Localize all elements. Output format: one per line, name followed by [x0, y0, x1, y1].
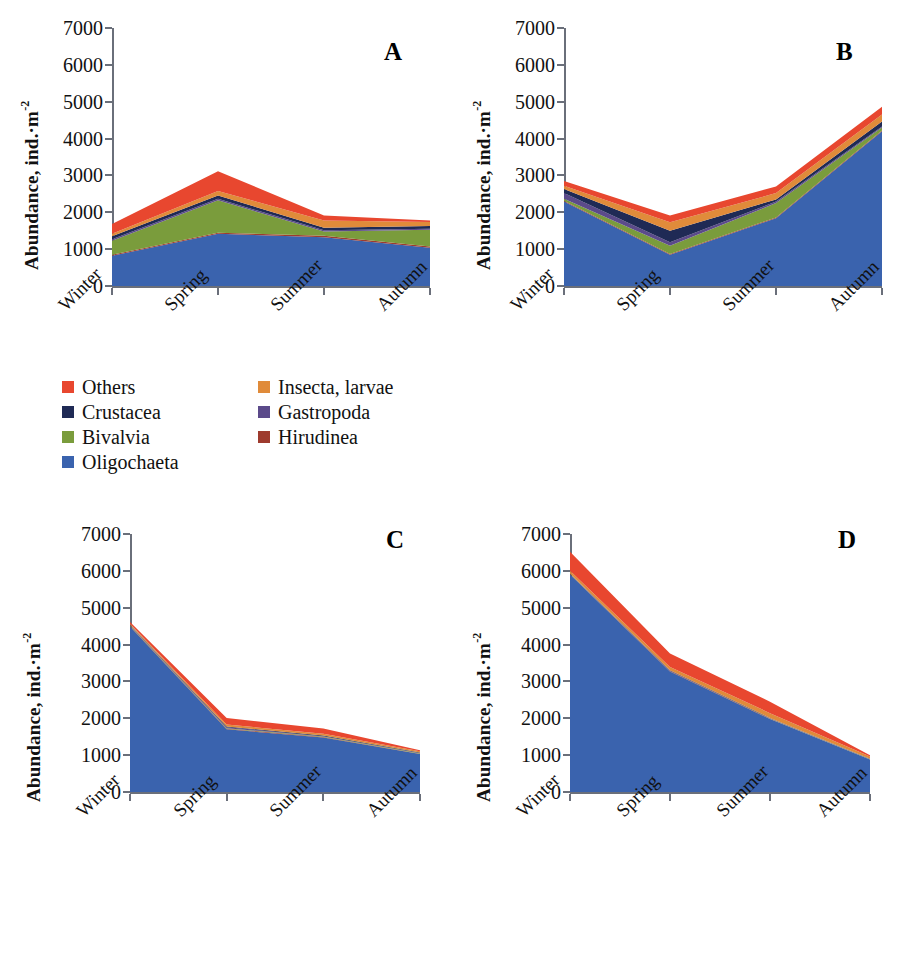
legend-row: OthersInsecta, larvae [62, 374, 462, 399]
panel-d: Abundance, ind.·m-2 01000200030004000500… [452, 512, 907, 912]
x-axis-tick-mark [323, 288, 325, 295]
x-axis-tick-mark [669, 288, 671, 295]
y-axis-tick-mark [123, 570, 130, 572]
y-axis-tick-mark [557, 248, 564, 250]
y-axis-tick-mark [123, 644, 130, 646]
y-axis-unit-exponent: -2 [20, 632, 34, 642]
legend-swatch-icon [258, 381, 270, 393]
stacked-area-plot [112, 28, 430, 287]
x-axis-tick-mark [563, 288, 565, 295]
panel-d-label: D [838, 526, 856, 554]
panel-c-y-axis-label: Abundance, ind.·m-2 [20, 572, 45, 802]
panel-c-plot-area: 01000200030004000500060007000WinterSprin… [130, 534, 420, 792]
legend-item-others[interactable]: Others [62, 377, 258, 397]
area-series-oligochaeta [130, 627, 420, 792]
legend-swatch-icon [258, 406, 270, 418]
legend-row: CrustaceaGastropoda [62, 399, 462, 424]
x-axis-tick-mark [869, 794, 871, 801]
x-axis-tick-mark [669, 794, 671, 801]
x-axis-tick-mark [322, 794, 324, 801]
legend-item-gastropoda[interactable]: Gastropoda [258, 402, 370, 422]
y-axis-tick-mark [557, 27, 564, 29]
legend: OthersInsecta, larvaeCrustaceaGastropoda… [62, 374, 462, 474]
y-axis-tick-mark [557, 174, 564, 176]
legend-swatch-icon [62, 406, 74, 418]
y-axis-unit-exponent: -2 [18, 100, 32, 110]
panel-c-label: C [386, 526, 404, 554]
y-axis-tick-mark [105, 174, 112, 176]
legend-item-insecta-larvae[interactable]: Insecta, larvae [258, 377, 393, 397]
x-axis-tick-mark [226, 794, 228, 801]
panel-a-label: A [384, 38, 402, 66]
y-axis-tick-mark [563, 680, 570, 682]
y-axis-tick-mark [123, 717, 130, 719]
y-axis-tick-mark [557, 101, 564, 103]
y-axis-tick-mark [123, 533, 130, 535]
legend-label: Hirudinea [278, 427, 358, 447]
panel-c: Abundance, ind.·m-2 01000200030004000500… [0, 512, 452, 912]
panel-a-plot-area: 01000200030004000500060007000WinterSprin… [112, 28, 430, 286]
figure-root: Abundance, ind.·m-2 01000200030004000500… [0, 0, 907, 970]
panel-d-plot-area: 01000200030004000500060007000WinterSprin… [570, 534, 870, 792]
legend-label: Insecta, larvae [278, 377, 393, 397]
legend-item-crustacea[interactable]: Crustacea [62, 402, 258, 422]
y-axis-tick-mark [557, 285, 564, 287]
y-axis-unit-exponent: -2 [470, 100, 484, 110]
y-axis-tick-mark [105, 27, 112, 29]
y-axis-tick-mark [123, 680, 130, 682]
y-axis-tick-mark [123, 607, 130, 609]
legend-row: BivalviaHirudinea [62, 424, 462, 449]
legend-item-oligochaeta[interactable]: Oligochaeta [62, 452, 258, 472]
y-axis-tick-mark [105, 64, 112, 66]
legend-label: Gastropoda [278, 402, 370, 422]
y-axis-tick-mark [557, 138, 564, 140]
x-axis-tick-mark [129, 794, 131, 801]
y-axis-tick-mark [563, 570, 570, 572]
panel-b: Abundance, ind.·m-2 01000200030004000500… [452, 0, 907, 380]
y-axis-tick-mark [123, 791, 130, 793]
legend-item-hirudinea[interactable]: Hirudinea [258, 427, 358, 447]
y-axis-tick-mark [563, 644, 570, 646]
legend-swatch-icon [62, 431, 74, 443]
legend-row: Oligochaeta [62, 449, 462, 474]
y-axis-tick-mark [105, 138, 112, 140]
x-axis-tick-mark [769, 794, 771, 801]
x-axis-tick-mark [419, 794, 421, 801]
y-axis-tick-mark [563, 533, 570, 535]
x-axis-tick-mark [881, 288, 883, 295]
legend-label: Oligochaeta [82, 452, 179, 472]
stacked-area-plot [570, 534, 870, 793]
legend-item-bivalvia[interactable]: Bivalvia [62, 427, 258, 447]
panel-a-y-axis-label: Abundance, ind.·m-2 [18, 40, 43, 270]
y-axis-tick-mark [563, 717, 570, 719]
y-axis-tick-mark [105, 211, 112, 213]
x-axis-tick-mark [111, 288, 113, 295]
y-axis-tick-mark [123, 754, 130, 756]
y-axis-tick-mark [105, 101, 112, 103]
panel-b-label: B [836, 38, 853, 66]
x-axis-tick-mark [569, 794, 571, 801]
panel-b-y-axis-label: Abundance, ind.·m-2 [470, 40, 495, 270]
y-axis-tick-mark [557, 211, 564, 213]
legend-swatch-icon [62, 456, 74, 468]
stacked-area-plot [564, 28, 882, 287]
panel-d-y-axis-label: Abundance, ind.·m-2 [470, 572, 495, 802]
y-axis-tick-mark [557, 64, 564, 66]
x-axis-tick-mark [429, 288, 431, 295]
legend-label: Bivalvia [82, 427, 150, 447]
y-axis-tick-mark [563, 791, 570, 793]
y-axis-unit-exponent: -2 [470, 632, 484, 642]
y-axis-tick-mark [105, 248, 112, 250]
panel-a: Abundance, ind.·m-2 01000200030004000500… [0, 0, 452, 380]
x-axis-tick-mark [217, 288, 219, 295]
y-axis-tick-mark [563, 754, 570, 756]
legend-swatch-icon [62, 381, 74, 393]
x-axis-tick-mark [775, 288, 777, 295]
y-axis-tick-mark [563, 607, 570, 609]
y-axis-tick-mark [105, 285, 112, 287]
panel-b-plot-area: 01000200030004000500060007000WinterSprin… [564, 28, 882, 286]
legend-label: Others [82, 377, 135, 397]
legend-swatch-icon [258, 431, 270, 443]
stacked-area-plot [130, 534, 420, 793]
legend-label: Crustacea [82, 402, 161, 422]
